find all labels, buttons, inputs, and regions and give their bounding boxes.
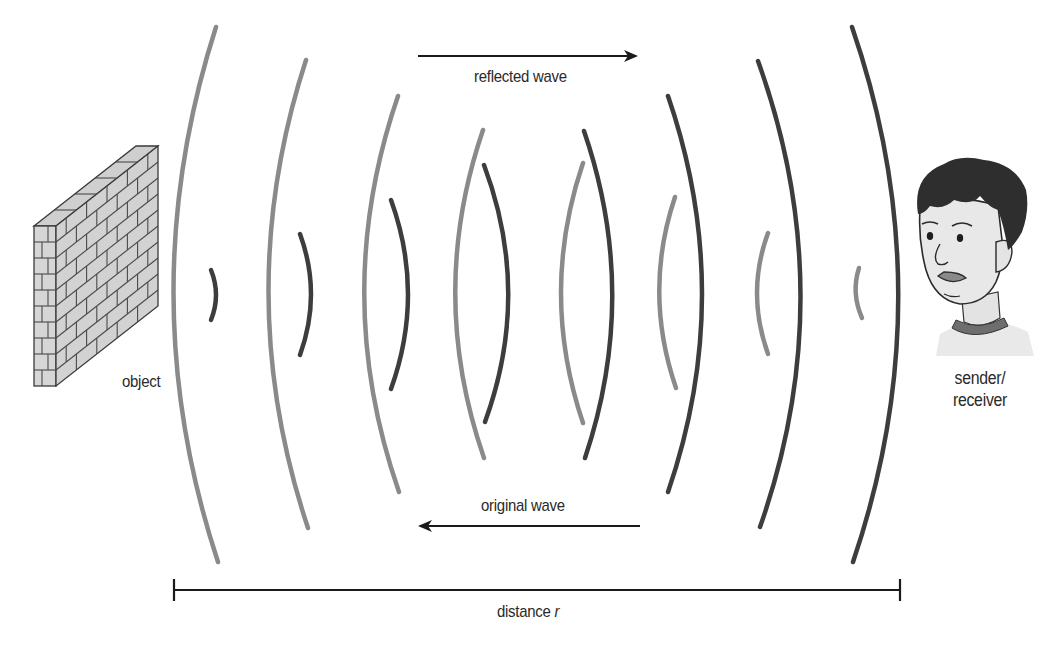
reflected-wave-arc-1 [211,270,216,320]
reflected-wave-label: reflected wave [474,67,567,87]
distance-variable: r [555,602,560,621]
reflected-wave-arcs [211,27,898,562]
original-wave-arc-1 [173,27,218,562]
reflected-wave-arc-7 [758,61,801,527]
reflected-wave-arc-6 [668,96,702,492]
distance-bar [174,579,900,601]
reflected-wave-arc-8 [852,27,898,562]
sender-label-line2: receiver [943,390,1017,411]
reflected-wave-arc-2 [300,234,311,355]
original-wave-label: original wave [481,496,565,516]
person-head-icon [917,158,1034,356]
original-wave-arc-2 [268,60,308,528]
original-wave-arc-6 [659,197,676,388]
distance-label: distance r [497,602,559,622]
original-wave-arc-5 [561,163,583,423]
reflected-wave-arc-5 [584,131,612,458]
reflected-wave-arc-4 [484,165,508,422]
original-wave-arc-7 [757,233,768,354]
original-wave-arc-4 [455,130,484,458]
original-wave-arcs [173,27,862,562]
sender-label-line1: sender/ [943,368,1017,389]
object-label: object [122,372,160,392]
echo-diagram [0,0,1045,649]
brick-wall-icon [34,146,158,386]
distance-label-text: distance [497,602,555,621]
original-wave-arc-8 [856,268,862,318]
reflected-wave-arc-3 [391,200,408,389]
original-wave-arc-3 [364,96,399,492]
sender-receiver-label: sender/ receiver [938,368,1022,411]
